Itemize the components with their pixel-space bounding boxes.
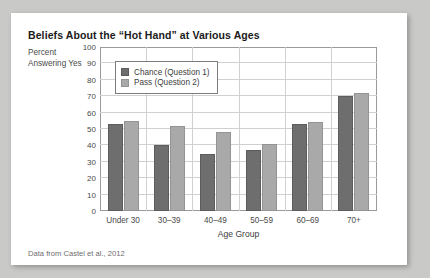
figure-card: Beliefs About the “Hot Hand” at Various … bbox=[11, 13, 407, 265]
y-axis-tick-label: 80 bbox=[87, 75, 96, 84]
bar bbox=[338, 96, 353, 211]
x-axis-tick-label: 50–59 bbox=[250, 216, 273, 225]
bar bbox=[200, 154, 215, 211]
bar bbox=[308, 122, 323, 211]
legend-label-chance: Chance (Question 1) bbox=[134, 68, 210, 77]
bar bbox=[246, 150, 261, 211]
page-background: Beliefs About the “Hot Hand” at Various … bbox=[0, 0, 430, 278]
legend-swatch-icon-pass bbox=[121, 79, 129, 87]
y-axis-tick-label: 20 bbox=[87, 174, 96, 183]
x-axis-tick-label: 40–49 bbox=[204, 216, 227, 225]
y-axis-tick-label: 90 bbox=[87, 59, 96, 68]
y-axis-tick-label: 30 bbox=[87, 157, 96, 166]
x-axis-tick-label: Under 30 bbox=[106, 216, 140, 225]
bar bbox=[170, 126, 185, 211]
x-axis-tick-label: 70+ bbox=[347, 216, 361, 225]
bar bbox=[292, 124, 307, 211]
bar bbox=[108, 124, 123, 211]
y-axis-tick-label: 40 bbox=[87, 141, 96, 150]
legend: Chance (Question 1) Pass (Question 2) bbox=[115, 61, 218, 94]
x-axis-label: Age Group bbox=[100, 229, 377, 239]
bar bbox=[124, 121, 139, 211]
figure-title: Beliefs About the “Hot Hand” at Various … bbox=[28, 29, 260, 41]
y-axis-tick-label: 10 bbox=[87, 190, 96, 199]
legend-swatch-icon-chance bbox=[121, 68, 129, 76]
bar-group: 60–69 bbox=[285, 47, 331, 211]
y-axis-tick-label: 100 bbox=[83, 43, 96, 52]
y-axis-tick-label: 0 bbox=[92, 207, 96, 216]
legend-label-pass: Pass (Question 2) bbox=[134, 78, 200, 87]
x-axis-tick-label: 60–69 bbox=[296, 216, 319, 225]
bar bbox=[354, 93, 369, 211]
legend-item-pass: Pass (Question 2) bbox=[121, 78, 210, 87]
y-axis-label: Percent Answering Yes bbox=[28, 48, 86, 69]
bar-group: 50–59 bbox=[239, 47, 285, 211]
bar bbox=[262, 144, 277, 211]
y-axis-tick-label: 70 bbox=[87, 92, 96, 101]
figure-source-note: Data from Castel et al., 2012 bbox=[28, 249, 125, 258]
bar bbox=[216, 132, 231, 211]
bar-group: 70+ bbox=[331, 47, 377, 211]
x-axis-tick-label: 30–39 bbox=[158, 216, 181, 225]
y-axis-tick-label: 60 bbox=[87, 108, 96, 117]
legend-item-chance: Chance (Question 1) bbox=[121, 68, 210, 77]
y-axis-tick-label: 50 bbox=[87, 125, 96, 134]
bar bbox=[154, 145, 169, 211]
